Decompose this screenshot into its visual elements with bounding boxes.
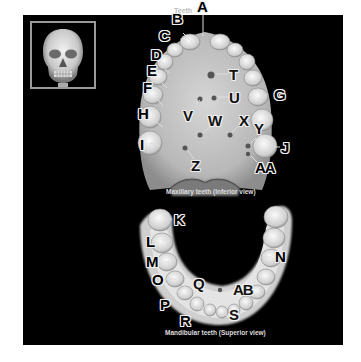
label-J: J: [281, 140, 289, 155]
maxillary-caption: Maxillary teeth (Inferior view): [166, 188, 256, 195]
label-D: D: [151, 47, 162, 62]
mandibular-caption: Mandibular teeth (Superior view): [165, 329, 266, 336]
label-C: C: [159, 28, 170, 43]
label-R: R: [180, 313, 191, 328]
label-W: W: [208, 113, 222, 128]
label-Z: Z: [191, 158, 200, 173]
label-P: P: [160, 297, 170, 312]
label-M: M: [146, 254, 159, 269]
label-K: K: [174, 212, 185, 227]
label-O: O: [152, 272, 164, 287]
label-I: I: [140, 137, 144, 152]
label-Q: Q: [193, 276, 205, 291]
label-AA: AA: [255, 160, 275, 175]
label-N: N: [275, 249, 286, 264]
label-X: X: [239, 113, 249, 128]
label-B: B: [172, 11, 183, 26]
label-G: G: [274, 87, 286, 102]
label-S: S: [229, 307, 239, 322]
label-H: H: [138, 106, 149, 121]
dental-arches-illustration: [0, 0, 361, 362]
label-AB: AB: [233, 282, 253, 297]
label-U: U: [229, 90, 240, 105]
label-T: T: [229, 67, 238, 82]
label-V: V: [183, 108, 193, 123]
label-E: E: [147, 63, 157, 78]
label-F: F: [143, 80, 152, 95]
label-A: A: [197, 0, 208, 14]
label-Y: Y: [254, 121, 264, 136]
label-L: L: [146, 234, 155, 249]
